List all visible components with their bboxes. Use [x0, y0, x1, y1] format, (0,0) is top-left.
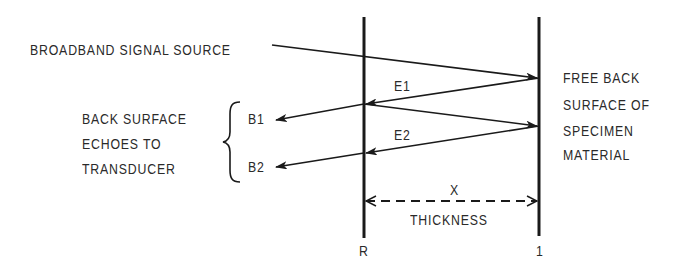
echo-label-e1: E1 — [394, 78, 411, 93]
dimension-caption: THICKNESS — [410, 212, 488, 227]
brace-icon — [223, 102, 240, 182]
echo-e1-ray — [366, 78, 539, 104]
echo-diagram: BROADBAND SIGNAL SOURCE E1 E2 B1 B2 BACK… — [0, 0, 694, 274]
echo-b1-ray — [276, 104, 364, 120]
internal-reflection-ray — [364, 104, 537, 126]
right-surface-label-line-4: MATERIAL — [563, 147, 630, 162]
left-boundary-label: R — [359, 243, 369, 258]
echo-e2-ray — [366, 126, 539, 153]
source-ray — [272, 45, 537, 78]
back-echo-label-b1: B1 — [248, 111, 265, 126]
right-surface-label-line-1: FREE BACK — [563, 70, 640, 85]
back-echo-label-b2: B2 — [248, 159, 265, 174]
echo-b2-ray — [276, 153, 364, 167]
left-group-label-line-1: BACK SURFACE — [82, 111, 187, 126]
source-label: BROADBAND SIGNAL SOURCE — [30, 42, 231, 57]
echo-label-e2: E2 — [394, 127, 411, 142]
left-group-label-line-3: TRANSDUCER — [82, 161, 176, 176]
left-group-label-line-2: ECHOES TO — [82, 136, 161, 151]
right-surface-label-line-3: SPECIMEN — [563, 123, 634, 138]
dimension-label: X — [450, 182, 459, 197]
right-boundary-label: 1 — [536, 243, 544, 258]
right-surface-label-line-2: SURFACE OF — [563, 97, 650, 112]
